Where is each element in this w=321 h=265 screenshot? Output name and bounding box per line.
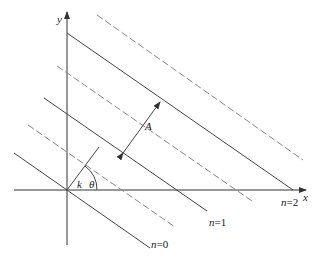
wavefront-diagram: y x k θ A n=0 n=1 n=2	[0, 0, 321, 265]
wavefront-half-1	[57, 66, 252, 201]
wavefront-n1	[44, 98, 207, 211]
wavefront-half-2	[97, 15, 303, 160]
n1-label: n=1	[209, 216, 226, 228]
k-label: k	[77, 178, 83, 190]
theta-label: θ	[89, 178, 95, 190]
x-axis-label: x	[302, 191, 308, 203]
n2-label: n=2	[281, 196, 298, 208]
wavefront-half-0	[28, 125, 175, 227]
y-axis-label: y	[56, 13, 62, 25]
n0-label: n=0	[151, 238, 169, 250]
amplitude-label: A	[144, 120, 152, 132]
wavefront-n0	[14, 153, 150, 248]
amplitude-arrow	[123, 102, 160, 153]
wavefront-n2	[67, 33, 293, 190]
